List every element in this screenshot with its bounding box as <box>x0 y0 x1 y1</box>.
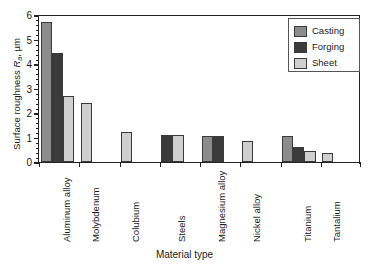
y-minor-tick <box>36 148 39 149</box>
y-minor-tick <box>36 60 39 61</box>
x-tick-2 <box>120 162 121 167</box>
bar-magnesium-alloy-casting <box>202 136 213 162</box>
x-category-label-steels: Steels <box>176 216 187 242</box>
bar-tantalium-sheet <box>322 153 333 162</box>
legend-item-sheet: Sheet <box>294 55 359 71</box>
y-minor-tick <box>36 104 39 105</box>
y-tick-label-0: 0 <box>26 158 32 168</box>
y-tick-4 <box>34 64 39 65</box>
y-axis-title-prefix: Surface roughness <box>11 68 22 150</box>
chart-legend: Casting Forging Sheet <box>288 18 360 72</box>
bar-steels-forging <box>161 135 172 162</box>
y-minor-tick <box>36 50 39 51</box>
bar-steels-sheet <box>172 135 183 162</box>
y-minor-tick <box>36 118 39 119</box>
bar-molybdenum-sheet <box>81 103 92 162</box>
bar-aluminum-alloy-sheet <box>63 96 74 162</box>
legend-swatch-forging <box>294 42 307 53</box>
y-tick-5 <box>34 40 39 41</box>
legend-label-casting: Casting <box>312 26 344 36</box>
y-minor-tick <box>36 123 39 124</box>
y-tick-label-4: 4 <box>26 60 32 70</box>
x-category-label-titanium: Titanium <box>302 206 313 242</box>
y-minor-tick <box>36 74 39 75</box>
bar-magnesium-alloy-forging <box>213 136 224 162</box>
bar-titanium-sheet <box>304 151 315 162</box>
y-axis-units: , µm <box>11 38 22 57</box>
x-tick-6 <box>281 162 282 167</box>
x-category-label-aluminum-alloy: Aluminum alloy <box>61 178 72 242</box>
y-tick-6 <box>34 15 39 16</box>
bar-titanium-casting <box>282 136 293 162</box>
legend-swatch-casting <box>294 26 307 37</box>
y-axis-title: Surface roughness Ra, µm <box>11 19 23 169</box>
legend-item-forging: Forging <box>294 39 359 55</box>
bar-aluminum-alloy-forging <box>52 53 63 162</box>
y-minor-tick <box>36 133 39 134</box>
bar-aluminum-alloy-casting <box>41 22 52 162</box>
y-minor-tick <box>36 84 39 85</box>
x-tick-7 <box>321 162 322 167</box>
x-tick-5 <box>240 162 241 167</box>
x-category-label-colubium: Colubium <box>130 202 141 242</box>
y-minor-tick <box>36 30 39 31</box>
y-minor-tick <box>36 20 39 21</box>
y-minor-tick <box>36 69 39 70</box>
x-tick-0 <box>39 162 40 167</box>
x-category-label-molybdenum: Molybdenum <box>90 188 101 242</box>
y-tick-2 <box>34 113 39 114</box>
legend-item-casting: Casting <box>294 23 359 39</box>
y-tick-label-5: 5 <box>26 36 32 46</box>
x-tick-end <box>360 162 361 167</box>
bar-titanium-forging <box>293 147 304 162</box>
y-minor-tick <box>36 25 39 26</box>
legend-label-sheet: Sheet <box>312 58 337 68</box>
y-tick-label-3: 3 <box>26 85 32 95</box>
bar-nickel-alloy-sheet <box>242 141 253 162</box>
y-tick-label-1: 1 <box>26 134 32 144</box>
y-tick-1 <box>34 138 39 139</box>
y-axis-subscript: a <box>16 57 23 61</box>
y-minor-tick <box>36 128 39 129</box>
legend-swatch-sheet <box>294 58 307 69</box>
y-minor-tick <box>36 45 39 46</box>
bar-chart-figure: Surface roughness Ra, µm 0123456 Aluminu… <box>0 0 369 269</box>
y-minor-tick <box>36 94 39 95</box>
x-axis-title: Material type <box>0 249 369 260</box>
legend-label-forging: Forging <box>312 42 344 52</box>
x-category-label-nickel-alloy: Nickel alloy <box>251 194 262 242</box>
x-category-label-tantalium: Tantalium <box>331 201 342 242</box>
y-minor-tick <box>36 35 39 36</box>
y-minor-tick <box>36 99 39 100</box>
y-tick-label-2: 2 <box>26 109 32 119</box>
y-minor-tick <box>36 55 39 56</box>
x-category-label-magnesium-alloy: Magnesium alloy <box>216 171 227 242</box>
y-minor-tick <box>36 79 39 80</box>
y-tick-label-6: 6 <box>26 11 32 21</box>
y-minor-tick <box>36 153 39 154</box>
x-tick-1 <box>79 162 80 167</box>
x-tick-3 <box>160 162 161 167</box>
y-tick-3 <box>34 89 39 90</box>
y-minor-tick <box>36 109 39 110</box>
y-minor-tick <box>36 143 39 144</box>
x-tick-4 <box>200 162 201 167</box>
y-axis-symbol: R <box>11 61 22 68</box>
y-minor-tick <box>36 158 39 159</box>
bar-colubium-sheet <box>121 132 132 162</box>
